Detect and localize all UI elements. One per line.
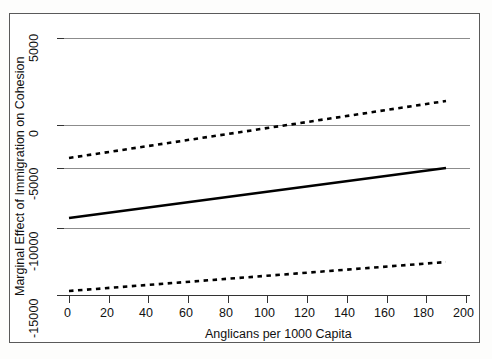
series-lower-ci-line	[69, 262, 446, 291]
x-tick-label-160: 160	[374, 306, 395, 320]
y-axis-ticks	[57, 38, 64, 295]
x-tick-label-0: 0	[64, 306, 71, 320]
x-axis-title: Anglicans per 1000 Capita	[205, 327, 352, 341]
x-tick-label-180: 180	[413, 306, 434, 320]
y-tick-label-5000: 5000	[27, 34, 41, 62]
x-tick-label-80: 80	[219, 306, 233, 320]
y-tick-label--5000: -5000	[27, 168, 41, 200]
x-axis	[61, 295, 470, 303]
x-tick-label-40: 40	[139, 306, 153, 320]
x-tick-label-20: 20	[100, 306, 114, 320]
figure-container: 5000 0 -5000 -10000 -15000 Marginal Effe…	[0, 0, 492, 359]
series-marginal-effect-line	[69, 168, 446, 218]
x-tick-label-200: 200	[453, 306, 474, 320]
y-tick-label--10000: -10000	[27, 231, 41, 271]
x-tick-label-100: 100	[254, 306, 275, 320]
y-tick-label--15000: -15000	[27, 298, 41, 338]
x-tick-label-60: 60	[179, 306, 193, 320]
y-axis-title: Marginal Effect of Immigration on Cohesi…	[13, 57, 27, 296]
x-tick-label-140: 140	[334, 306, 355, 320]
x-tick-label-120: 120	[294, 306, 315, 320]
series-upper-ci-line	[69, 101, 446, 158]
gridlines	[61, 38, 470, 295]
y-tick-label-0: 0	[27, 130, 41, 137]
